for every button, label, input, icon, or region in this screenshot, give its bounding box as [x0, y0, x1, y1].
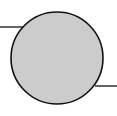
diagram-canvas	[0, 0, 117, 116]
circle-node	[11, 12, 103, 104]
